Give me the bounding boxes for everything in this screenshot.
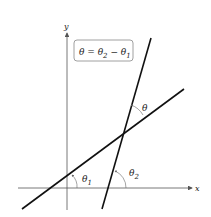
theta1-arc (72, 175, 77, 188)
line-1 (22, 89, 184, 209)
y-axis-label: y (63, 22, 69, 31)
x-axis-label: x (195, 184, 200, 193)
line-2 (102, 38, 151, 209)
theta2-label: θ2 (129, 168, 139, 181)
theta1-label: θ1 (82, 174, 92, 187)
theta2-arc (115, 171, 126, 188)
theta-label: θ (142, 103, 148, 113)
angle-between-lines-diagram: x y θ θ1 θ2 θ = θ2 − θ1 (0, 0, 211, 217)
